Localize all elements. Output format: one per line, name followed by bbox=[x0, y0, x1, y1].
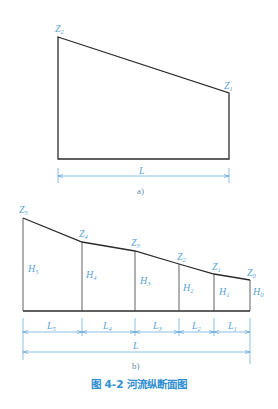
l4-label: L4 bbox=[102, 320, 113, 332]
h3-label: H3 bbox=[139, 275, 151, 287]
l2-label: L2 bbox=[191, 320, 202, 332]
sublabel-b: b) bbox=[132, 361, 140, 371]
river-profile-diagram: Z2 Z1 L a) Z5 Z4 Z3 Z2 Z1 Z0 H5 H4 H3 H2… bbox=[0, 0, 278, 409]
figure-b: Z5 Z4 Z3 Z2 Z1 Z0 H5 H4 H3 H2 H1 H0 L5 L… bbox=[19, 204, 264, 371]
h2-label: H2 bbox=[182, 282, 194, 294]
z1-label: Z1 bbox=[212, 261, 221, 273]
l5-label: L5 bbox=[46, 320, 57, 332]
profile-outline-a bbox=[58, 37, 229, 159]
length-label-a: L bbox=[138, 165, 145, 176]
figure-caption: 图 4-2 河流纵断面图 bbox=[91, 378, 187, 390]
z2-label: Z2 bbox=[55, 23, 65, 35]
l1-label: L1 bbox=[227, 320, 237, 332]
h1-label: H1 bbox=[218, 286, 229, 298]
h0-label: H0 bbox=[252, 286, 264, 298]
total-length-label-b: L bbox=[132, 340, 139, 351]
h5-label: H5 bbox=[27, 263, 39, 275]
sublabel-a: a) bbox=[137, 186, 144, 196]
z1-label: Z1 bbox=[224, 80, 233, 92]
z4-label: Z4 bbox=[79, 228, 89, 240]
z3-label: Z3 bbox=[131, 237, 141, 249]
l3-label: L3 bbox=[152, 320, 163, 332]
z5-label: Z5 bbox=[19, 204, 29, 216]
z0-label: Z0 bbox=[247, 267, 257, 279]
h4-label: H4 bbox=[85, 269, 97, 281]
z2-label: Z2 bbox=[177, 251, 187, 263]
figure-a: Z2 Z1 L a) bbox=[55, 23, 233, 196]
